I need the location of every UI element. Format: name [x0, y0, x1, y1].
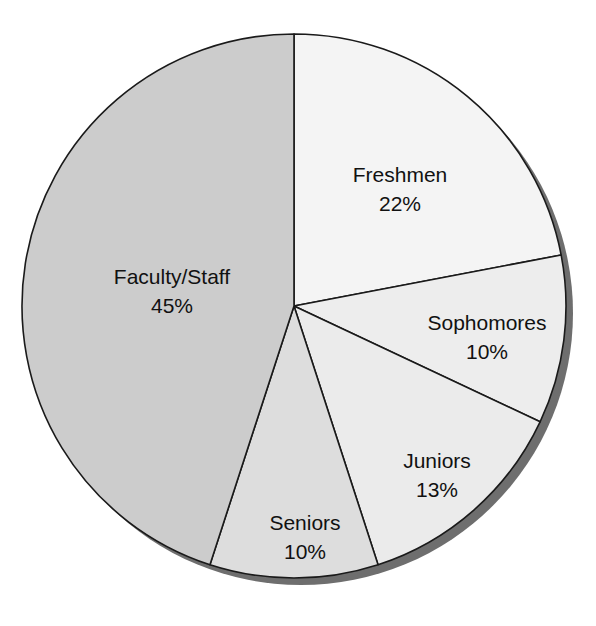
- pie-chart-figure: Freshmen22%Sophomores10%Juniors13%Senior…: [0, 0, 596, 626]
- slice-value-sophomores: 10%: [466, 340, 508, 363]
- slice-value-freshmen: 22%: [379, 192, 421, 215]
- slice-value-faculty-staff: 45%: [151, 294, 193, 317]
- pie-chart-svg: Freshmen22%Sophomores10%Juniors13%Senior…: [0, 0, 596, 626]
- slice-label-freshmen: Freshmen: [353, 163, 448, 186]
- slice-label-faculty-staff: Faculty/Staff: [114, 265, 230, 288]
- slice-label-juniors: Juniors: [403, 449, 471, 472]
- slice-value-juniors: 13%: [416, 478, 458, 501]
- slice-value-seniors: 10%: [284, 540, 326, 563]
- pie-slices-group: [22, 34, 566, 578]
- slice-label-sophomores: Sophomores: [427, 311, 546, 334]
- slice-label-seniors: Seniors: [269, 511, 340, 534]
